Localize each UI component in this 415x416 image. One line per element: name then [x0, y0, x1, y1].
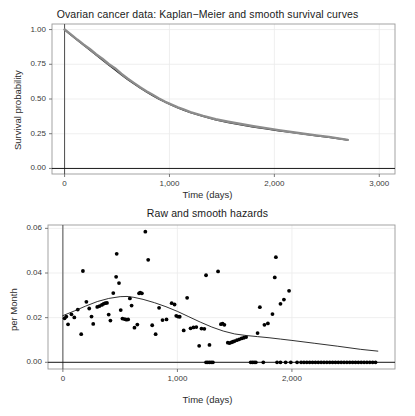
- hazard-data-point: [161, 318, 165, 322]
- hazard-data-point: [115, 252, 119, 256]
- survival-plot-area: [0, 0, 415, 203]
- figure-container: Ovarian cancer data: Kaplan−Meier and sm…: [0, 0, 415, 416]
- hazard-data-point: [273, 276, 277, 280]
- x-tick-label: 3,000: [354, 179, 404, 188]
- x-tick-label: 2,000: [267, 374, 317, 383]
- hazard-data-point: [263, 323, 267, 327]
- hazard-data-point: [208, 343, 212, 347]
- hazard-data-point: [66, 322, 70, 326]
- y-tick-label: 1.00: [10, 25, 46, 34]
- x-tick-label: 2,000: [249, 179, 299, 188]
- hazard-data-point: [295, 360, 299, 364]
- hazard-data-point: [111, 291, 115, 295]
- hazard-data-point: [150, 323, 154, 327]
- hazard-data-point: [109, 319, 113, 323]
- hazard-y-axis-title: per Month: [8, 288, 19, 331]
- hazard-data-point: [135, 323, 139, 327]
- hazard-data-point: [91, 322, 95, 326]
- hazard-data-point: [157, 306, 161, 310]
- y-tick-label: 0.06: [6, 223, 42, 232]
- hazard-data-point: [114, 275, 118, 279]
- y-tick-label: 0.25: [10, 129, 46, 138]
- y-tick-label: 0.75: [10, 59, 46, 68]
- hazard-data-point: [84, 300, 88, 304]
- hazard-data-point: [194, 325, 198, 329]
- survival-x-axis-title: Time (days): [0, 189, 415, 200]
- hazard-data-point: [216, 270, 220, 274]
- x-tick-label: 1,000: [152, 374, 202, 383]
- hazard-data-point: [211, 360, 215, 364]
- hazard-data-point: [256, 331, 260, 335]
- y-tick-label: 0.00: [6, 357, 42, 366]
- x-tick-label: 1,000: [144, 179, 194, 188]
- hazard-data-point: [178, 315, 182, 319]
- hazard-data-point: [266, 322, 270, 326]
- y-tick-label: 0.04: [6, 268, 42, 277]
- hazard-data-point: [72, 316, 76, 320]
- hazard-data-point: [105, 301, 109, 305]
- hazard-data-point: [254, 360, 258, 364]
- hazard-data-point: [204, 273, 208, 277]
- hazard-data-point: [154, 332, 158, 336]
- hazard-data-point: [222, 323, 226, 327]
- hazard-data-point: [119, 308, 123, 312]
- y-tick-label: 0.02: [6, 313, 42, 322]
- hazard-data-point: [274, 255, 278, 259]
- hazard-data-point: [374, 360, 378, 364]
- hazard-plot-area: [0, 203, 415, 416]
- x-tick-label: 0: [38, 374, 88, 383]
- x-tick-label: 0: [40, 179, 90, 188]
- hazard-data-point: [90, 315, 94, 319]
- hazard-data-point: [126, 318, 130, 322]
- hazard-data-point: [81, 269, 85, 273]
- hazard-data-point: [289, 360, 293, 364]
- hazard-data-point: [185, 296, 189, 300]
- hazard-data-point: [79, 332, 83, 336]
- y-tick-label: 0.00: [10, 163, 46, 172]
- hazard-data-point: [173, 303, 177, 307]
- hazard-data-point: [146, 258, 150, 262]
- hazard-data-point: [87, 307, 91, 311]
- plot-background: [48, 225, 395, 369]
- hazard-data-point: [261, 360, 265, 364]
- hazard-data-point: [271, 312, 275, 316]
- hazard-data-point: [165, 318, 169, 322]
- hazard-data-point: [279, 360, 283, 364]
- hazard-data-point: [279, 302, 283, 306]
- hazard-x-axis-title: Time (days): [0, 394, 415, 405]
- hazard-data-point: [182, 328, 186, 332]
- hazard-chart-panel: Raw and smooth hazards per Month Time (d…: [0, 203, 415, 416]
- survival-y-axis-title: Survival probability: [12, 70, 23, 150]
- y-tick-label: 0.50: [10, 94, 46, 103]
- hazard-data-point: [117, 281, 121, 285]
- hazard-data-point: [275, 360, 279, 364]
- hazard-data-point: [107, 313, 111, 317]
- hazard-data-point: [130, 304, 134, 308]
- hazard-data-point: [197, 344, 201, 348]
- hazard-data-point: [282, 298, 286, 302]
- hazard-data-point: [143, 230, 147, 234]
- survival-chart-panel: Ovarian cancer data: Kaplan−Meier and sm…: [0, 0, 415, 203]
- hazard-data-point: [258, 305, 262, 309]
- hazard-data-point: [140, 291, 144, 295]
- hazard-data-point: [284, 360, 288, 364]
- hazard-data-point: [133, 326, 137, 330]
- hazard-data-point: [287, 289, 291, 293]
- hazard-data-point: [202, 327, 206, 331]
